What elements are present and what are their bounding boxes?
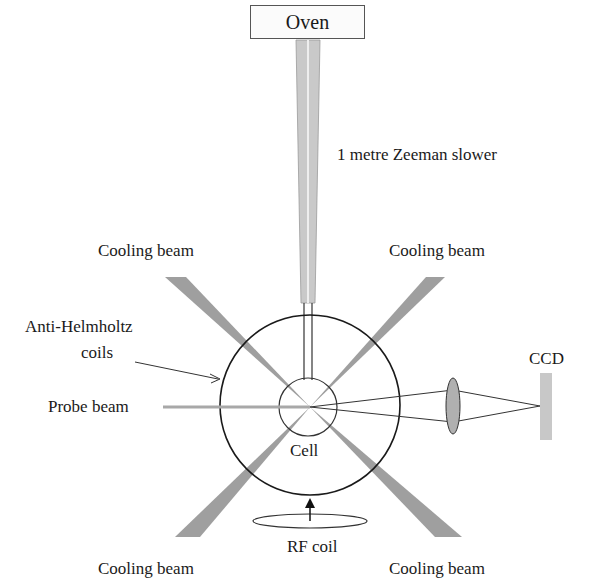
cooling-beam-upper-left [165,277,310,407]
lens [446,378,460,434]
oven-label: Oven [286,11,329,34]
cooling-beam-lower-left [175,407,310,537]
zeeman-slower-tube [296,40,320,380]
cooling-beam-lower-right [310,407,462,537]
cooling-beam-upper-right-label: Cooling beam [389,242,485,259]
imaging-rays [310,390,540,422]
cooling-beam-lower-right-label: Cooling beam [389,560,485,577]
rf-coil-label: RF coil [287,538,338,555]
ccd-sensor [540,373,552,440]
slower-label: 1 metre Zeeman slower [337,146,497,163]
cell-label: Cell [290,442,318,459]
cooling-beam-lower-left-label: Cooling beam [98,560,194,577]
coils-label-line2: coils [81,344,113,361]
oven-box: Oven [250,5,365,39]
rf-coil-arrow [305,498,315,521]
coils-pointer-arrow [135,362,220,383]
apparatus-diagram [0,0,598,587]
coils-label: Anti-Helmholtz [25,318,133,335]
cooling-beam-upper-left-label: Cooling beam [98,242,194,259]
ccd-label: CCD [529,350,564,367]
probe-beam-label: Probe beam [48,398,129,415]
